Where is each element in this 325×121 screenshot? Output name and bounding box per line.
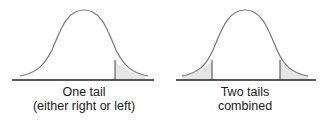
caption-line-2: (either right or left) — [9, 99, 159, 113]
right-tail-shade — [115, 61, 145, 81]
one-tail-caption: One tail (either right or left) — [9, 85, 159, 113]
two-tails-diagram — [176, 10, 316, 80]
caption-line-2: combined — [172, 99, 318, 113]
normal-curve — [20, 10, 148, 76]
one-tail-diagram — [12, 10, 154, 80]
caption-line-1: One tail — [9, 85, 159, 99]
two-tails-caption: Two tails combined — [172, 85, 318, 113]
caption-line-1: Two tails — [172, 85, 318, 99]
normal-curve — [182, 10, 308, 76]
